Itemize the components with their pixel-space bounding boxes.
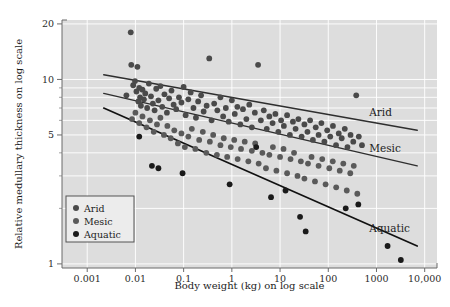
data-point-arid bbox=[138, 103, 144, 109]
data-point-arid bbox=[162, 91, 168, 97]
data-point-arid bbox=[275, 129, 281, 135]
data-point-aquatic bbox=[180, 170, 186, 176]
data-point-aquatic bbox=[156, 165, 162, 171]
data-point-arid bbox=[229, 97, 235, 103]
data-point-arid bbox=[305, 129, 311, 135]
data-point-arid bbox=[128, 62, 134, 68]
data-point-mesic bbox=[196, 137, 202, 143]
data-point-arid bbox=[176, 94, 182, 100]
data-point-mesic bbox=[266, 152, 272, 158]
data-point-arid bbox=[333, 142, 339, 148]
y-tick-label-20: 20 bbox=[42, 18, 54, 29]
data-point-arid bbox=[146, 81, 152, 87]
data-point-mesic bbox=[129, 116, 135, 122]
data-point-mesic bbox=[288, 156, 294, 162]
legend-marker-arid bbox=[73, 205, 79, 211]
data-point-mesic bbox=[340, 161, 346, 167]
data-point-mesic bbox=[203, 150, 209, 156]
data-point-arid bbox=[124, 92, 130, 98]
data-point-arid bbox=[287, 132, 293, 138]
data-point-aquatic bbox=[283, 188, 289, 194]
data-point-mesic bbox=[214, 152, 220, 158]
y-tick-label-10: 10 bbox=[42, 74, 54, 85]
data-point-mesic bbox=[210, 132, 216, 138]
data-point-mesic bbox=[179, 130, 185, 136]
data-point-arid bbox=[218, 94, 224, 100]
data-point-arid bbox=[169, 88, 175, 94]
data-point-mesic bbox=[270, 144, 276, 150]
data-point-arid bbox=[266, 114, 272, 120]
data-point-arid bbox=[316, 132, 322, 138]
data-point-arid bbox=[295, 116, 301, 122]
data-point-arid bbox=[152, 107, 158, 113]
data-point-arid bbox=[249, 124, 255, 130]
data-point-mesic bbox=[175, 141, 181, 147]
data-point-arid bbox=[150, 101, 156, 107]
data-point-mesic bbox=[158, 115, 164, 121]
data-point-arid bbox=[198, 92, 204, 98]
legend: AridMesicAquatic bbox=[66, 196, 134, 242]
data-point-mesic bbox=[309, 154, 315, 160]
data-point-aquatic bbox=[303, 229, 309, 235]
data-point-arid bbox=[148, 93, 154, 99]
data-point-arid bbox=[191, 105, 197, 111]
data-point-mesic bbox=[235, 156, 241, 162]
data-point-arid bbox=[188, 90, 194, 96]
data-point-arid bbox=[270, 120, 276, 126]
data-point-aquatic bbox=[253, 144, 259, 150]
y-tick-labels: 201051 bbox=[42, 18, 54, 269]
data-point-arid bbox=[336, 130, 342, 136]
data-point-mesic bbox=[333, 184, 339, 190]
data-point-arid bbox=[264, 126, 270, 132]
data-point-arid bbox=[307, 117, 313, 123]
x-tick-label-10,000: 10,000 bbox=[408, 273, 441, 284]
data-point-arid bbox=[299, 134, 305, 140]
x-tick-label-0.01: 0.01 bbox=[125, 273, 146, 284]
data-point-arid bbox=[166, 95, 172, 101]
data-point-mesic bbox=[185, 134, 191, 140]
data-point-mesic bbox=[354, 191, 360, 197]
data-point-arid bbox=[214, 107, 220, 113]
data-point-mesic bbox=[291, 150, 297, 156]
data-point-aquatic bbox=[227, 181, 233, 187]
data-point-mesic bbox=[221, 135, 227, 141]
data-point-arid bbox=[156, 97, 162, 103]
data-point-mesic bbox=[192, 146, 198, 152]
data-point-aquatic bbox=[268, 194, 274, 200]
data-point-arid bbox=[318, 120, 324, 126]
data-point-mesic bbox=[147, 117, 153, 123]
data-point-mesic bbox=[323, 181, 329, 187]
data-point-arid bbox=[195, 99, 201, 105]
data-point-arid bbox=[237, 122, 243, 128]
line-label-aquatic: Aquatic bbox=[368, 222, 410, 234]
data-point-aquatic bbox=[297, 214, 303, 220]
data-point-mesic bbox=[344, 188, 350, 194]
data-point-arid bbox=[353, 92, 359, 98]
data-point-mesic bbox=[312, 179, 318, 185]
data-point-mesic bbox=[316, 163, 322, 169]
y-axis-title: Relative medullary thickness on log scal… bbox=[13, 39, 24, 249]
data-point-mesic bbox=[168, 135, 174, 141]
data-point-arid bbox=[290, 119, 296, 125]
data-point-mesic bbox=[281, 146, 287, 152]
data-point-mesic bbox=[284, 170, 290, 176]
data-point-arid bbox=[345, 144, 351, 150]
data-point-mesic bbox=[140, 114, 146, 120]
data-point-arid bbox=[252, 110, 258, 116]
data-point-arid bbox=[348, 132, 354, 138]
data-point-arid bbox=[330, 123, 336, 129]
data-point-mesic bbox=[295, 173, 301, 179]
data-point-arid bbox=[272, 111, 278, 117]
data-point-arid bbox=[185, 96, 191, 102]
data-point-arid bbox=[206, 56, 212, 62]
data-point-mesic bbox=[330, 158, 336, 164]
data-point-mesic bbox=[144, 124, 150, 130]
data-point-arid bbox=[240, 106, 246, 112]
data-point-arid bbox=[183, 112, 189, 118]
data-point-mesic bbox=[337, 168, 343, 174]
legend-marker-aquatic bbox=[73, 231, 79, 237]
data-point-arid bbox=[204, 103, 210, 109]
data-point-arid bbox=[220, 114, 226, 120]
x-axis-title: Body weight (kg) on log scale bbox=[174, 280, 324, 291]
legend-label-aquatic: Aquatic bbox=[83, 229, 121, 240]
